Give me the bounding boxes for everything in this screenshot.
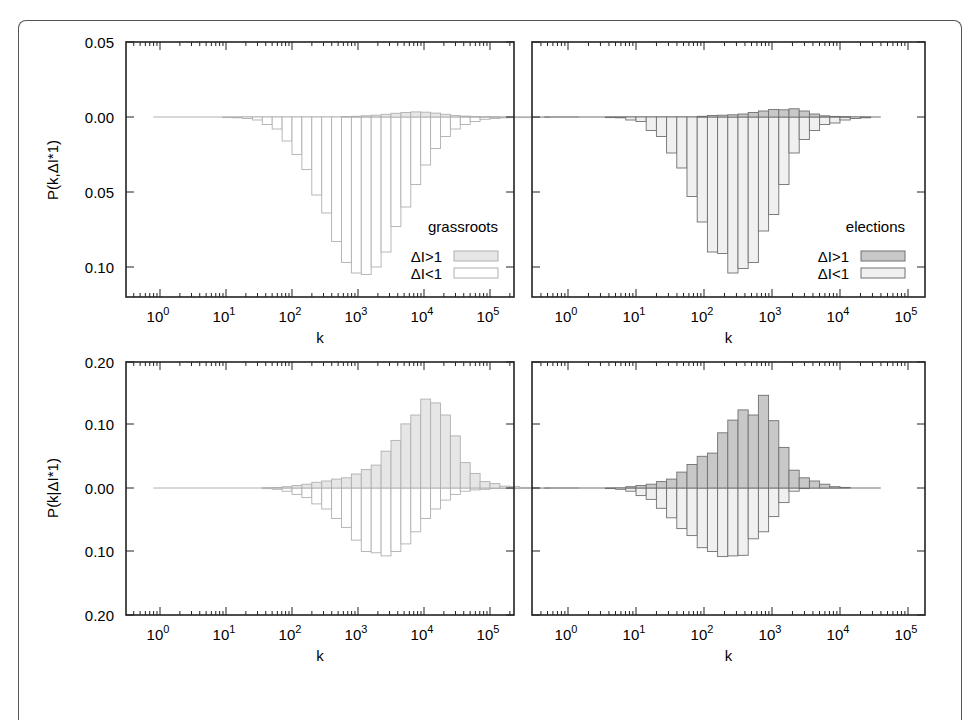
histogram-bar [616, 117, 626, 118]
histogram-bar [677, 472, 687, 488]
histogram-bar [401, 424, 411, 488]
histogram-bar [605, 488, 615, 489]
histogram-bar [282, 117, 292, 141]
histogram-bar [646, 117, 656, 131]
x-tick-label: 103 [759, 623, 782, 643]
histogram-bar [371, 115, 381, 117]
histogram-bar [667, 479, 677, 488]
histogram-bar [799, 478, 809, 488]
histogram-bar [381, 488, 391, 556]
histogram-bar [480, 482, 490, 488]
x-tick-label: 105 [895, 305, 918, 325]
histogram-bar [646, 484, 656, 488]
legend-swatch [861, 268, 905, 278]
x-tick-label: 101 [623, 305, 646, 325]
histogram-bar [605, 117, 615, 118]
histogram-bar [728, 115, 738, 117]
histogram-bar [840, 487, 850, 488]
histogram-bar [687, 465, 697, 489]
histogram-bar [450, 436, 460, 488]
x-axis-title: k [316, 647, 324, 664]
x-tick-label: 103 [759, 305, 782, 325]
histogram-bar [626, 487, 636, 488]
histogram-bar [441, 117, 451, 137]
histogram-bar [656, 488, 666, 508]
histogram-bar [758, 395, 768, 488]
x-tick-label: 104 [827, 623, 850, 643]
histogram-bar [272, 487, 282, 488]
histogram-bar [840, 117, 850, 118]
y-tick-label: 0.20 [85, 354, 114, 371]
histogram-bar [697, 116, 707, 117]
histogram-bar [272, 117, 282, 129]
histogram-bar [282, 488, 292, 491]
histogram-bar [470, 117, 480, 118]
histogram-bar [718, 117, 728, 254]
x-tick-label: 104 [411, 305, 434, 325]
x-tick-label: 102 [279, 623, 302, 643]
y-axis-title-top: P(k,ΔI*1) [44, 140, 61, 200]
histogram-bar [450, 116, 460, 118]
histogram-bar [758, 111, 768, 117]
histogram-bar [302, 117, 312, 170]
bar-series-above [697, 109, 850, 117]
histogram-bar [667, 117, 677, 153]
x-tick-label: 100 [147, 305, 170, 325]
bar-series-below [223, 117, 550, 275]
histogram-bar [860, 117, 870, 118]
histogram-bar [769, 421, 779, 488]
histogram-bar [431, 117, 441, 149]
histogram-bar [626, 117, 636, 120]
histogram-bar [470, 117, 480, 122]
histogram-bar [809, 114, 819, 117]
histogram-bar [411, 488, 421, 532]
histogram-bar [820, 117, 830, 125]
x-tick-label: 100 [147, 623, 170, 643]
legend: electionsΔI>1ΔI<1 [818, 218, 905, 282]
histogram-bar [520, 487, 530, 488]
histogram-bar [351, 474, 361, 488]
histogram-bar [697, 456, 707, 488]
histogram-bar [728, 117, 738, 273]
histogram-bar [809, 481, 819, 488]
legend-label: ΔI>1 [818, 248, 849, 265]
histogram-bar [391, 113, 401, 117]
histogram-bar [677, 117, 687, 168]
histogram-bar [656, 482, 666, 488]
histogram-bar [441, 114, 451, 117]
histogram-bar [490, 484, 500, 488]
histogram-bar [411, 112, 421, 117]
histogram-bar [322, 488, 332, 509]
histogram-bar [616, 488, 626, 489]
histogram-bar [748, 113, 758, 118]
legend-title: grassroots [428, 218, 498, 235]
histogram-bar [441, 415, 451, 488]
histogram-bar [401, 113, 411, 118]
histogram-bar [520, 117, 530, 118]
y-tick-label: 0.00 [85, 480, 114, 497]
histogram-bar [748, 117, 758, 263]
histogram-bar [789, 117, 799, 153]
legend-label: ΔI>1 [411, 248, 442, 265]
histogram-bar [809, 117, 819, 131]
histogram-bar [779, 117, 789, 185]
histogram-bar [391, 117, 401, 227]
histogram-bar [450, 117, 460, 129]
histogram-bar [779, 110, 789, 117]
x-tick-label: 102 [691, 623, 714, 643]
histogram-bar [850, 117, 860, 119]
histogram-bar [830, 117, 840, 123]
histogram-bar [830, 116, 840, 117]
x-tick-label: 105 [895, 623, 918, 643]
histogram-bar [312, 117, 322, 195]
histogram-bar [830, 487, 840, 488]
histogram-bar [381, 114, 391, 117]
histogram-bar [411, 117, 421, 185]
histogram-bar [401, 117, 411, 207]
histogram-bar [262, 117, 272, 125]
histogram-bar [243, 117, 253, 119]
histogram-bar [728, 488, 738, 556]
histogram-bar [351, 117, 361, 273]
histogram-bar [646, 488, 656, 499]
